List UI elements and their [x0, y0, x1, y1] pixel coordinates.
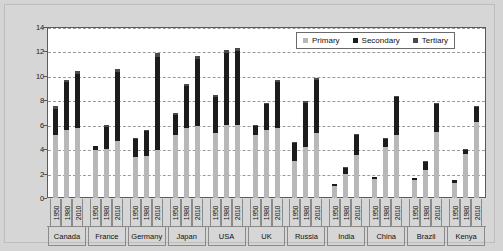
x-axis-year-label: 1950 [451, 206, 458, 220]
gridline [48, 175, 485, 176]
chart-figure: 02468101214 PrimarySecondaryTertiary 195… [0, 0, 503, 251]
x-axis-year-label: 1980 [223, 206, 230, 220]
x-axis-year-label: 1950 [92, 206, 99, 220]
x-axis-year-label: 1980 [103, 206, 110, 220]
gridline [48, 52, 485, 53]
x-axis-country-label: USA [219, 232, 234, 241]
x-axis-country-label: Brazil [417, 232, 436, 241]
x-axis-country-label: India [338, 232, 354, 241]
x-axis-year-cell: 2010 [391, 199, 402, 227]
x-axis-year-label: 1950 [172, 206, 179, 220]
x-axis-year-cell: 1980 [300, 199, 311, 227]
x-axis-year-label: 1950 [252, 206, 259, 220]
gridline [48, 150, 485, 151]
x-axis-country-cell: France [88, 227, 126, 246]
legend-item[interactable]: Tertiary [413, 36, 448, 45]
x-axis-year-cell: 1980 [181, 199, 192, 227]
x-axis-year-cell: 1980 [141, 199, 152, 227]
x-axis-year-cell: 1950 [369, 199, 380, 227]
x-axis-year-label: 1950 [411, 206, 418, 220]
x-axis-year-cell: 1950 [210, 199, 221, 227]
x-axis-year-label: 1980 [263, 206, 270, 220]
x-axis-year-cell: 1980 [221, 199, 232, 227]
x-axis-year-cell: 2010 [192, 199, 203, 227]
x-axis-country-cell: Brazil [407, 227, 445, 246]
x-axis-year-cell: 1980 [101, 199, 112, 227]
x-axis-year-label: 2010 [353, 206, 360, 220]
y-axis: 02468101214 [5, 27, 47, 198]
x-axis-year-cell: 2010 [232, 199, 243, 227]
x-axis-year-cell: 2010 [351, 199, 362, 227]
x-axis-year-label: 1980 [63, 206, 70, 220]
gridline [48, 101, 485, 102]
legend-swatch-icon [413, 38, 418, 43]
x-axis-year-label: 1980 [302, 206, 309, 220]
gridline [48, 28, 485, 29]
x-axis-year-label: 1950 [331, 206, 338, 220]
x-axis-year-label: 1980 [342, 206, 349, 220]
x-axis-year-cell: 1980 [420, 199, 431, 227]
x-axis-year-label: 1980 [183, 206, 190, 220]
x-axis-year-cell: 1950 [50, 199, 61, 227]
x-axis-year-label: 1950 [212, 206, 219, 220]
x-axis-year-cell: 2010 [431, 199, 442, 227]
legend-label: Tertiary [422, 36, 448, 45]
x-axis-year-cell: 2010 [112, 199, 123, 227]
x-axis-year-cell: 1980 [380, 199, 391, 227]
x-axis-year-cell: 2010 [272, 199, 283, 227]
legend-item[interactable]: Secondary [353, 36, 400, 45]
x-axis-country-label: Canada [54, 232, 80, 241]
x-axis-country-label: Kenya [455, 232, 476, 241]
x-axis-year-label: 2010 [74, 206, 81, 220]
x-axis-country-cell: Japan [168, 227, 206, 246]
x-axis-year-cell: 1980 [460, 199, 471, 227]
legend-label: Primary [312, 36, 340, 45]
x-axis-year-label: 1950 [371, 206, 378, 220]
x-axis-year-cell: 1980 [340, 199, 351, 227]
x-axis-year-cell: 2010 [471, 199, 482, 227]
gridline [48, 77, 485, 78]
x-axis-year-label: 2010 [154, 206, 161, 220]
x-axis-country-cell: Kenya [447, 227, 485, 246]
legend-item[interactable]: Primary [303, 36, 340, 45]
x-axis-year-label: 2010 [313, 206, 320, 220]
x-axis-country-label: Japan [176, 232, 196, 241]
x-axis-country-cell: Canada [48, 227, 86, 246]
legend-swatch-icon [303, 38, 308, 43]
x-axis-year-cell: 1950 [170, 199, 181, 227]
x-axis-year-label: 2010 [114, 206, 121, 220]
x-axis-year-cell: 1950 [250, 199, 261, 227]
x-axis-country-cell: China [367, 227, 405, 246]
legend-label: Secondary [362, 36, 400, 45]
x-axis-year-cell: 1980 [61, 199, 72, 227]
gridline [48, 126, 485, 127]
chart-frame: 02468101214 PrimarySecondaryTertiary 195… [4, 4, 495, 243]
x-axis-country-cell: USA [208, 227, 246, 246]
x-axis-year-label: 2010 [433, 206, 440, 220]
x-axis-year-cell: 1950 [130, 199, 141, 227]
x-axis-year-label: 1980 [143, 206, 150, 220]
x-axis-country-label: France [95, 232, 118, 241]
x-axis-year-cell: 2010 [311, 199, 322, 227]
x-axis-country-cell: UK [248, 227, 286, 246]
x-axis-country-cell: Germany [128, 227, 166, 246]
x-axis-year-label: 1950 [52, 206, 59, 220]
legend: PrimarySecondaryTertiary [296, 32, 455, 49]
x-axis-country-label: Germany [131, 232, 162, 241]
x-axis-year-label: 1980 [462, 206, 469, 220]
legend-swatch-icon [353, 38, 358, 43]
x-axis-country-label: China [376, 232, 396, 241]
x-axis-years: 1950198020101950198020101950198020101950… [47, 199, 486, 227]
x-axis-year-label: 1950 [291, 206, 298, 220]
x-axis-year-cell: 1950 [329, 199, 340, 227]
x-axis-year-cell: 2010 [152, 199, 163, 227]
x-axis-year-label: 1980 [422, 206, 429, 220]
x-axis-year-cell: 1950 [289, 199, 300, 227]
x-axis-year-label: 1980 [382, 206, 389, 220]
x-axis-country-label: Russia [295, 232, 318, 241]
x-axis-year-label: 2010 [194, 206, 201, 220]
x-axis-country-label: UK [261, 232, 271, 241]
x-axis-year-label: 2010 [234, 206, 241, 220]
x-axis-year-cell: 2010 [72, 199, 83, 227]
x-axis-year-label: 2010 [393, 206, 400, 220]
